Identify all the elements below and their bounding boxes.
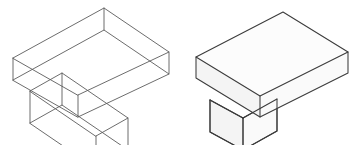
isometric-figure-canvas: Isometric Slab With Pedestal — Wireframe… — [0, 0, 361, 145]
